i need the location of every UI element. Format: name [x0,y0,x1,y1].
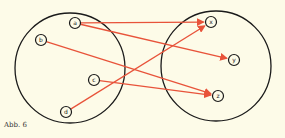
figure-caption: Abb. 6 [4,121,27,129]
set-codomain [161,11,271,121]
node-d: d [61,107,72,118]
node-z: z [213,91,224,102]
node-label: y [232,56,236,64]
node-label: b [39,36,43,43]
node-c: c [89,75,100,86]
mapping-diagram: abcdxyz [0,0,285,138]
node-label: a [73,19,77,26]
arrow-a-to-x [80,22,203,23]
set-domain [15,13,125,123]
node-b: b [36,35,47,46]
arrow-d-to-x [71,26,205,109]
arrows [46,22,226,109]
node-label: x [209,18,213,25]
node-label: z [216,92,219,99]
node-y: y [229,55,240,66]
node-label: c [92,76,95,83]
node-a: a [70,18,81,29]
sets [15,11,271,123]
node-label: d [64,108,68,115]
node-x: x [206,17,217,28]
arrow-a-to-y [80,24,226,58]
